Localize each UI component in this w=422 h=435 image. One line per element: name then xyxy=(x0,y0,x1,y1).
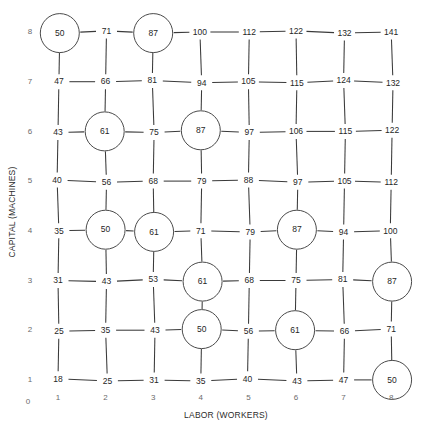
grid-line xyxy=(200,40,201,76)
grid-line xyxy=(354,81,382,82)
grid-node-value: 115 xyxy=(290,78,304,88)
grid-node-value: 115 xyxy=(339,126,353,136)
grid-line xyxy=(317,231,333,232)
isoquant-node-value: 50 xyxy=(387,375,397,385)
grid-node-value: 141 xyxy=(384,27,398,37)
y-tick-label: 2 xyxy=(28,325,33,334)
grid-line xyxy=(353,280,371,281)
grid-line xyxy=(261,231,277,232)
y-tick-label: 8 xyxy=(28,27,33,36)
grid-node-value: 79 xyxy=(197,176,207,186)
grid-node-value: 112 xyxy=(243,27,257,37)
grid-line xyxy=(296,38,297,75)
grid-node-value: 88 xyxy=(244,175,254,185)
grid-node-value: 56 xyxy=(102,177,112,187)
grid-line xyxy=(153,140,154,174)
y-tick-label: 5 xyxy=(28,176,33,185)
production-function-chart: 5071871001121221321414766819410511512413… xyxy=(0,0,422,435)
grid-line xyxy=(69,281,97,282)
grid-node-value: 81 xyxy=(148,75,158,85)
grid-node-value: 35 xyxy=(101,325,111,335)
grid-node-value: 66 xyxy=(340,326,350,336)
isoquant-node-value: 87 xyxy=(292,224,302,234)
isoquant-node-value: 87 xyxy=(387,276,397,286)
grid-line xyxy=(211,231,239,232)
grid-node-value: 43 xyxy=(292,376,302,386)
grid-line xyxy=(118,380,144,381)
grid-line xyxy=(248,339,249,372)
grid-line xyxy=(392,90,393,123)
grid-line xyxy=(164,280,182,281)
x-tick-label: 4 xyxy=(199,393,204,402)
grid-node-value: 75 xyxy=(291,275,301,285)
grid-line xyxy=(106,338,107,374)
isoquant-node-value: 50 xyxy=(101,224,111,234)
grid-node-value: 18 xyxy=(53,374,63,384)
grid-line xyxy=(260,132,286,133)
isoquant-node-value: 61 xyxy=(198,276,208,286)
grid-line xyxy=(249,140,250,173)
grid-line xyxy=(249,188,250,225)
grid-line xyxy=(259,82,287,83)
grid-line xyxy=(212,180,238,181)
isoquant-grid-plot: 5071871001121221321414766819410511512413… xyxy=(0,0,422,435)
grid-line xyxy=(117,181,143,182)
x-axis-tick-labels: 12345678 xyxy=(56,393,394,402)
isoquant-node-value: 61 xyxy=(149,227,159,237)
grid-line xyxy=(211,379,237,380)
x-axis-title: LABOR (WORKERS) xyxy=(184,410,268,420)
grid-line xyxy=(259,180,287,181)
grid-line xyxy=(355,330,381,331)
y-tick-label: 7 xyxy=(28,77,33,86)
grid-node-value: 43 xyxy=(53,127,63,137)
grid-line xyxy=(58,288,59,324)
grid-line xyxy=(355,32,381,33)
grid-line xyxy=(343,239,344,272)
y-tick-label: 4 xyxy=(28,226,33,235)
grid-line xyxy=(153,287,154,323)
grid-line xyxy=(296,90,297,124)
grid-line xyxy=(249,40,250,75)
grid-node-value: 75 xyxy=(149,127,159,137)
grid-line xyxy=(307,81,333,82)
grid-line xyxy=(344,189,345,225)
grid-line xyxy=(165,380,191,381)
grid-line xyxy=(354,231,380,232)
grid-node-value: 31 xyxy=(149,375,159,385)
origin-tick-label: 0 xyxy=(26,397,31,406)
grid-line xyxy=(57,188,58,224)
grid-line xyxy=(344,339,345,373)
grid-line xyxy=(163,81,191,82)
isoquant-node-value: 50 xyxy=(197,324,207,334)
grid-node-value: 31 xyxy=(53,275,63,285)
grid-line xyxy=(58,238,59,273)
grid-node-value: 81 xyxy=(338,274,348,284)
grid-line xyxy=(306,31,334,32)
grid-node-value: 40 xyxy=(52,175,62,185)
y-axis-tick-labels: 87654321 xyxy=(28,27,33,384)
grid-node-value: 25 xyxy=(54,326,64,336)
grid-line xyxy=(154,338,155,373)
grid-node-value: 68 xyxy=(245,275,255,285)
grid-line xyxy=(165,131,181,132)
x-tick-label: 7 xyxy=(341,393,346,402)
grid-node-value: 25 xyxy=(103,376,113,386)
x-tick-label: 8 xyxy=(389,393,394,402)
grid-line xyxy=(69,330,95,331)
grid-node-value: 66 xyxy=(101,76,111,86)
grid-line xyxy=(116,81,142,82)
grid-line xyxy=(343,287,344,324)
grid-node-value: 47 xyxy=(339,375,349,385)
grid-node-value: 124 xyxy=(337,75,351,85)
grid-line xyxy=(260,31,286,32)
grid-node-value: 106 xyxy=(289,126,303,136)
grid-node-value: 56 xyxy=(244,326,254,336)
grid-node-value: 105 xyxy=(241,76,255,86)
grid-line xyxy=(68,379,96,380)
grid-line xyxy=(222,330,238,331)
isoquant-node-value: 87 xyxy=(148,28,158,38)
x-tick-label: 2 xyxy=(103,393,108,402)
grid-line xyxy=(344,88,345,124)
isoquant-node-value: 61 xyxy=(100,126,110,136)
grid-node-value: 97 xyxy=(293,177,303,187)
